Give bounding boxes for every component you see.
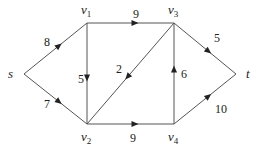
edge-line	[87, 23, 174, 124]
node-label-v4: v4	[168, 129, 179, 146]
flow-network-diagram: 8795296510sv1v3v2v4t	[0, 0, 266, 156]
edge-line	[174, 74, 236, 124]
edge-weight-label: 2	[116, 62, 122, 76]
arrowhead-icon	[84, 75, 90, 82]
node-label-v1: v1	[81, 2, 91, 19]
graph-svg: 8795296510sv1v3v2v4t	[0, 0, 266, 156]
edge-v4-v3: 6	[171, 23, 187, 124]
edge-weight-label: 9	[133, 7, 139, 21]
edge-weight-label: 9	[130, 131, 136, 145]
edge-weight-label: 5	[78, 72, 84, 86]
node-label-s: s	[8, 66, 13, 81]
edge-v1-v2: 5	[78, 23, 90, 124]
arrowhead-icon	[132, 121, 139, 127]
edge-line	[24, 23, 87, 74]
node-label-v2: v2	[81, 129, 91, 146]
edge-weight-label: 6	[181, 67, 187, 81]
edge-weight-label: 10	[215, 102, 227, 116]
edge-weight-label: 7	[44, 97, 50, 111]
node-label-v3: v3	[168, 2, 179, 19]
node-label-t: t	[246, 66, 250, 81]
edge-v2-v4: 9	[87, 121, 174, 145]
edge-v1-v3: 9	[87, 7, 174, 26]
arrowhead-icon	[171, 66, 177, 73]
edge-v3-v2: 2	[87, 23, 174, 124]
edge-weight-label: 5	[214, 31, 220, 45]
edge-s-v1: 8	[24, 23, 87, 74]
edge-weight-label: 8	[44, 35, 50, 49]
edge-v4-t: 10	[174, 74, 236, 124]
